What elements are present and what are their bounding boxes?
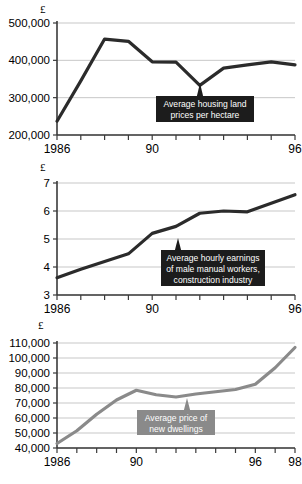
callout-pointer	[184, 398, 190, 411]
y-axis-tick-label: 400,000	[8, 54, 50, 66]
callout-text-line: Average hourly earnings	[167, 253, 260, 263]
y-axis-tick-label: 90,000	[15, 367, 50, 379]
y-axis-currency-symbol: £	[38, 319, 44, 331]
y-axis-tick-label: 6	[44, 205, 50, 217]
x-axis-tick-label: 98	[288, 455, 302, 469]
y-axis-tick-label: 300,000	[8, 92, 50, 104]
x-axis-tick-label: 1986	[44, 302, 71, 316]
y-axis-tick-label: 500,000	[8, 17, 50, 29]
y-axis-currency-symbol: £	[40, 3, 46, 15]
x-axis-tick-label: 1986	[44, 142, 71, 156]
callout-text-line: new dwellings	[149, 424, 203, 434]
x-axis-tick-label: 90	[130, 455, 144, 469]
x-axis-tick-label: 96	[249, 455, 263, 469]
male-manual-hourly-earnings-plot: £3456719869096Average hourly earningsof …	[0, 160, 302, 325]
y-axis-tick-label: 200,000	[8, 129, 50, 141]
average-price-new-dwellings-plot: £40,00050,00060,00070,00080,00090,000100…	[0, 318, 302, 484]
y-axis-tick-label: 80,000	[15, 382, 50, 394]
y-axis-tick-label: 40,000	[15, 442, 50, 454]
y-axis-tick-label: 4	[44, 261, 51, 273]
y-axis-tick-label: 3	[44, 289, 50, 301]
callout-text-line: Average price of	[145, 413, 208, 423]
chart-average-price-new-dwellings: £40,00050,00060,00070,00080,00090,000100…	[0, 318, 302, 484]
y-axis-tick-label: 60,000	[15, 412, 50, 424]
chart-housing-land-prices: £200,000300,000400,000500,00019869096Ave…	[0, 0, 302, 165]
y-axis-currency-symbol: £	[40, 161, 46, 173]
x-axis-tick-label: 1986	[44, 455, 71, 469]
y-axis-tick-label: 5	[44, 233, 50, 245]
callout-text-line: Average housing land	[164, 99, 247, 109]
callout-text-line: of male manual workers,	[166, 264, 260, 274]
y-axis-tick-label: 70,000	[15, 397, 50, 409]
y-axis-tick-label: 110,000	[9, 337, 50, 349]
y-axis-tick-label: 100,000	[8, 352, 50, 364]
chart-male-manual-hourly-earnings: £3456719869096Average hourly earningsof …	[0, 160, 302, 325]
x-axis-tick-label: 90	[146, 302, 160, 316]
y-axis-tick-label: 50,000	[15, 427, 50, 439]
housing-land-prices-plot: £200,000300,000400,000500,00019869096Ave…	[0, 0, 302, 165]
callout-pointer	[175, 238, 181, 251]
x-axis-tick-label: 96	[288, 142, 302, 156]
y-axis-tick-label: 7	[44, 177, 50, 189]
x-axis-tick-label: 96	[288, 302, 302, 316]
callout-text-line: prices per hectare	[171, 110, 240, 120]
x-axis-tick-label: 90	[146, 142, 160, 156]
callout-text-line: construction industry	[174, 275, 254, 285]
